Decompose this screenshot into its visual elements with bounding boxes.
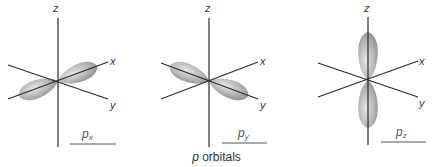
y-axis-label: y	[109, 99, 117, 111]
pz-diagram: z x y pz	[318, 2, 426, 145]
caption-text: orbitals	[199, 150, 241, 164]
p-orbitals-figure: z x y px z x y py z x y	[0, 0, 433, 167]
z-axis-label: z	[52, 2, 59, 14]
py-label: py	[237, 126, 250, 141]
py-diagram: z x y py	[161, 2, 267, 147]
figure-caption: p orbitals	[0, 150, 433, 164]
pz-label: pz	[395, 125, 407, 140]
x-axis-label: x	[109, 55, 116, 67]
y-axis-label: y	[259, 99, 267, 111]
caption-italic-p: p	[192, 150, 199, 164]
y-axis-label: y	[418, 97, 426, 109]
px-diagram: z x y px	[8, 2, 117, 147]
x-axis-label: x	[418, 55, 425, 67]
px-lobe-negative	[16, 73, 62, 105]
x-axis-label: x	[259, 55, 266, 67]
px-label: px	[81, 127, 94, 142]
z-axis-label: z	[363, 2, 370, 14]
z-axis-label: z	[204, 2, 211, 14]
